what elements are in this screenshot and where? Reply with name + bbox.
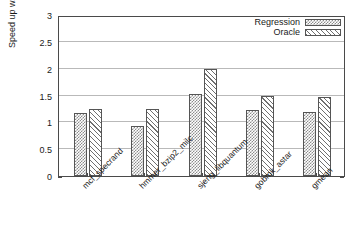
gridline: [59, 148, 344, 149]
y-tick-label: 2: [4, 66, 52, 75]
bar-regression-mcf_specrand: [74, 113, 87, 176]
bar-chart: Speed up w.r.t x86 00.511.522.53 mcf_spe…: [0, 0, 362, 247]
legend-item-regression: Regression: [232, 18, 341, 27]
bar-oracle-sjeng_libquantum: [204, 69, 217, 176]
bar-regression-gmean: [303, 112, 316, 176]
legend-item-oracle: Oracle: [232, 28, 341, 37]
y-tick-label: 1.5: [4, 93, 52, 102]
gridline: [59, 41, 344, 42]
y-tick-label: 2.5: [4, 39, 52, 48]
gridline: [59, 68, 344, 69]
chart-legend: Regression Oracle: [232, 17, 343, 40]
legend-swatch-oracle: [305, 29, 341, 36]
y-tick-mark-right: [340, 177, 344, 178]
y-tick-label: 0: [4, 173, 52, 182]
legend-label-regression: Regression: [254, 18, 300, 27]
y-tick-label: 1: [4, 119, 52, 128]
gridline: [59, 95, 344, 96]
y-tick-label: 0.5: [4, 146, 52, 155]
bar-regression-hmmer_bzip2_milc: [131, 126, 144, 176]
legend-label-oracle: Oracle: [273, 28, 300, 37]
plot-area: [58, 16, 345, 177]
gridline: [59, 121, 344, 122]
bar-oracle-gmean: [318, 97, 331, 176]
y-tick-mark: [58, 177, 62, 178]
y-tick-label: 3: [4, 12, 52, 21]
legend-swatch-regression: [305, 19, 341, 26]
